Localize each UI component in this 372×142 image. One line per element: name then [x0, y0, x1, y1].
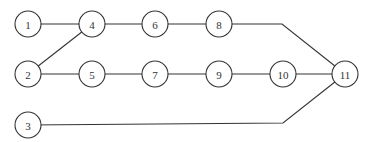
- node-1: 1: [15, 11, 41, 37]
- node-8: 8: [206, 11, 232, 37]
- node-7: 7: [142, 61, 168, 87]
- node-11: 11: [332, 61, 358, 87]
- node-label: 6: [152, 19, 158, 31]
- node-label: 9: [216, 69, 222, 81]
- node-label: 10: [278, 69, 290, 81]
- graph-svg: 1234567891011: [0, 0, 372, 142]
- node-6: 6: [142, 11, 168, 37]
- node-label: 2: [25, 69, 31, 81]
- node-label: 7: [152, 69, 158, 81]
- node-10: 10: [270, 61, 296, 87]
- node-3: 3: [15, 112, 41, 138]
- edge-3-11: [28, 74, 345, 125]
- node-label: 4: [89, 19, 95, 31]
- node-label: 1: [25, 19, 31, 31]
- node-2: 2: [15, 61, 41, 87]
- node-4: 4: [79, 11, 105, 37]
- edges-layer: [28, 24, 345, 125]
- node-label: 11: [340, 69, 351, 81]
- node-label: 8: [216, 19, 222, 31]
- node-label: 5: [89, 69, 95, 81]
- node-5: 5: [79, 61, 105, 87]
- node-9: 9: [206, 61, 232, 87]
- network-diagram: 1234567891011: [0, 0, 372, 142]
- node-label: 3: [25, 120, 31, 132]
